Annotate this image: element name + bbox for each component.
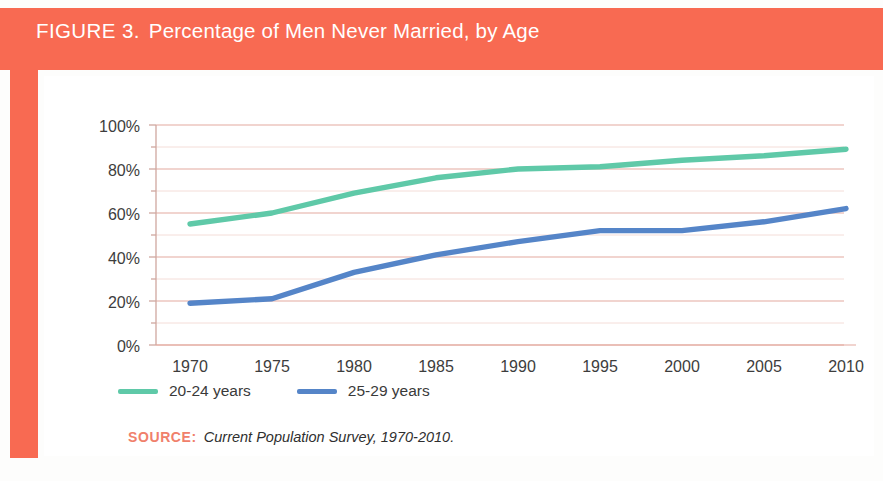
- x-tick-label-1970: 1970: [172, 358, 208, 375]
- y-axis: [149, 125, 156, 345]
- y-tick-label-40: 40%: [108, 250, 140, 267]
- figure-number-label: FIGURE 3.: [36, 19, 140, 42]
- legend-label-25-29: 25-29 years: [348, 382, 430, 400]
- x-tick-label-1980: 1980: [336, 358, 372, 375]
- legend-swatch-25-29: [297, 389, 337, 394]
- source-text-label: Current Population Survey, 1970-2010.: [204, 429, 454, 445]
- source-note: SOURCE:Current Population Survey, 1970-2…: [128, 428, 454, 446]
- y-tick-label-0: 0%: [117, 338, 140, 355]
- figure-left-spine: [10, 8, 38, 458]
- x-tick-label-2000: 2000: [664, 358, 700, 375]
- series-line-25-29: [190, 209, 846, 304]
- x-tick-label-1975: 1975: [254, 358, 290, 375]
- x-tick-label-1985: 1985: [418, 358, 454, 375]
- figure-container: FIGURE 3.Percentage of Men Never Married…: [0, 0, 883, 481]
- source-key-label: SOURCE:: [128, 429, 197, 445]
- y-tick-label-100: 100%: [99, 118, 140, 135]
- figure-title: FIGURE 3.Percentage of Men Never Married…: [36, 19, 540, 43]
- legend-item-25-29: 25-29 years: [297, 382, 430, 400]
- y-tick-label-20: 20%: [108, 294, 140, 311]
- legend-swatch-20-24: [118, 389, 158, 394]
- x-tick-label-2005: 2005: [746, 358, 782, 375]
- x-tick-label-1995: 1995: [582, 358, 618, 375]
- legend-label-20-24: 20-24 years: [169, 382, 251, 400]
- chart-legend: 20-24 years 25-29 years: [118, 382, 430, 400]
- figure-caption-label: Percentage of Men Never Married, by Age: [149, 19, 540, 42]
- x-tick-label-1990: 1990: [500, 358, 536, 375]
- legend-item-20-24: 20-24 years: [118, 382, 251, 400]
- y-tick-label-60: 60%: [108, 206, 140, 223]
- y-tick-label-80: 80%: [108, 162, 140, 179]
- x-tick-label-2010: 2010: [828, 358, 864, 375]
